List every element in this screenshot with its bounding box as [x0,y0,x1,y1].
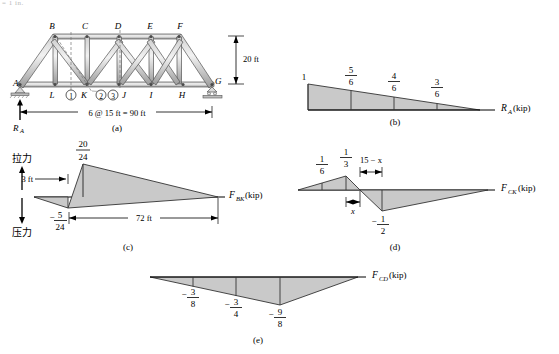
panel-d-value-1: 1 6 [316,154,328,176]
reaction-label: R [12,123,19,133]
svg-text:24: 24 [56,222,66,232]
panel-e-value-2: − 3 4 [224,297,242,319]
svg-text:A: A [507,108,512,115]
svg-text:8: 8 [191,299,196,309]
panel-c-dim-72ft-label: 72 ft [136,213,152,223]
tension-arrow: 拉力 [12,152,32,190]
panel-c-dim-3ft-label: 3 ft [21,174,33,184]
joint-label-A: A [12,78,19,88]
joint-label-J: J [122,90,127,100]
svg-text:1: 1 [381,214,386,224]
joint-label-D: D [114,21,122,31]
panel-b-value-1: 5 6 [345,65,357,87]
svg-text:24: 24 [79,152,89,162]
panel-b-value-2: 4 6 [388,71,400,93]
joint-label-G: G [215,76,222,86]
panel-b-value-1-den: 6 [349,77,354,87]
pin-support [10,87,29,98]
svg-text:CD: CD [379,275,388,282]
svg-text:3: 3 [344,159,349,169]
svg-text:F: F [228,190,235,200]
panel-d-influence-FCK: 1 6 1 3 − 1 2 15 − x x F CK (kip) (d) [280,150,559,255]
panel-d-caption: (d) [390,242,401,252]
compression-label: 压力 [12,226,32,238]
panel-c-peak-value: 20 24 [76,139,90,162]
panel-b-value-3: 3 6 [431,77,443,99]
panel-e-value-1: − 3 8 [181,287,199,309]
roller-support [203,87,222,98]
compression-arrow: 压力 [12,198,32,238]
panel-d-dim-x-label: x [350,206,355,216]
panel-a-truss: B C D E F A L K J I H G 1 2 3 [0,12,270,132]
svg-text:−: − [181,289,186,299]
panel-b-value-0: 1 [302,72,307,82]
svg-text:(kip): (kip) [389,270,407,280]
panel-d-value-2: 1 3 [340,147,352,169]
span-dimension-label: 6 @ 15 ft = 90 ft [88,108,146,118]
reaction-sub: A [19,127,24,134]
panel-b-value-1-num: 5 [349,65,354,75]
svg-text:5: 5 [58,210,63,220]
section-number-1: 1 [66,90,76,101]
panel-c-influence-FBK: 拉力 压力 20 24 − 5 24 3 ft 72 f [0,150,279,255]
panel-b-value-2-den: 6 [392,83,397,93]
section-number-3-label: 3 [111,92,115,101]
svg-text:1: 1 [344,147,349,157]
top-cropped-fragment: = 1 in. [2,0,24,7]
joint-label-L: L [48,90,54,100]
height-dimension-label: 20 ft [243,54,259,64]
svg-text:(kip): (kip) [518,183,536,193]
svg-text:4: 4 [234,309,239,319]
joint-label-H: H [178,90,186,100]
svg-text:20: 20 [79,139,89,149]
panel-d-area-positive [298,176,360,190]
panel-d-dim-x [346,191,360,207]
svg-text:−: − [268,309,273,319]
truss-members [18,34,214,88]
panel-d-value-3: − 1 2 [371,214,389,236]
tension-label: 拉力 [12,152,32,164]
svg-text:3: 3 [191,287,196,297]
panel-b-caption: (b) [390,117,401,127]
joint-label-E: E [146,21,153,31]
panel-e-axis-label: F CD (kip) [371,270,407,282]
svg-text:3: 3 [234,297,239,307]
svg-text:−: − [49,212,54,222]
section-number-2-label: 2 [99,92,103,101]
panel-c-min-value: − 5 24 [49,210,67,232]
svg-text:6: 6 [320,166,325,176]
joint-label-F: F [176,21,183,31]
svg-text:−: − [371,216,376,226]
panel-b-axis-label: R A (kip) [500,103,531,115]
panel-c-axis-label: F BK (kip) [228,190,263,202]
panel-c-dim-3ft [35,174,68,184]
panel-c-area-positive [68,164,218,208]
panel-d-axis-label: F CK (kip) [500,183,536,195]
panel-b-influence-RA: 1 5 6 4 6 3 6 R A (kip) (b) [280,58,559,128]
panel-b-value-3-num: 3 [435,77,440,87]
svg-text:F: F [371,270,378,280]
joint-label-I: I [149,90,154,100]
panel-e-caption: (e) [253,335,263,345]
section-number-1-label: 1 [69,92,73,101]
joint-label-B: B [49,21,55,31]
svg-text:BK: BK [236,195,245,202]
svg-text:(kip): (kip) [245,190,263,200]
svg-text:(kip): (kip) [513,103,531,113]
panel-d-dim-15x-label: 15 − x [360,155,383,165]
svg-text:−: − [224,299,229,309]
panel-e-influence-FCD: − 3 8 − 3 4 − 9 8 F CD (kip) (e) [140,265,430,350]
panel-c-caption: (c) [123,242,133,252]
panel-e-value-3: − 9 8 [268,307,286,329]
joint-label-K: K [80,90,88,100]
reaction-arrow-RA: R A [12,99,24,134]
joint-label-C: C [82,21,89,31]
panel-a-caption: (a) [112,123,122,133]
svg-text:2: 2 [381,226,386,236]
panel-d-area-negative [360,190,488,211]
svg-text:9: 9 [278,307,283,317]
panel-b-value-2-num: 4 [392,71,397,81]
svg-text:F: F [500,183,507,193]
section-number-3: 3 [108,90,118,101]
svg-text:1: 1 [320,154,325,164]
